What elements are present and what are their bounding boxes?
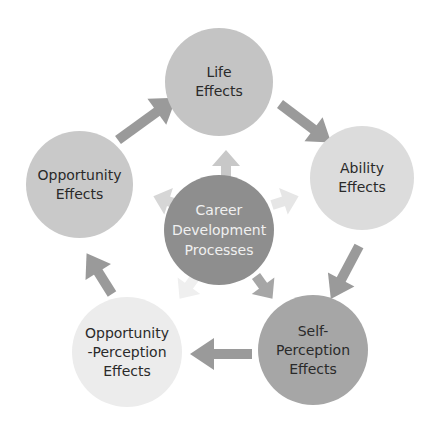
node-opportunity-perception-effects: Opportunity -Perception Effects: [72, 297, 182, 407]
node-life-effects: Life Effects: [165, 28, 273, 136]
node-label: Opportunity -Perception Effects: [85, 324, 169, 381]
radial-arrow-to-ability: [268, 183, 303, 218]
arrow-opportunity-perception-to-opportunity: [74, 245, 125, 302]
node-label: Ability Effects: [338, 159, 386, 197]
node-career-development-processes: Career Development Processes: [164, 175, 274, 285]
node-ability-effects: Ability Effects: [310, 126, 414, 230]
node-label: Life Effects: [195, 63, 243, 101]
arrow-self-perception-to-opportunity-perception: [190, 338, 252, 370]
center-label: Career Development Processes: [172, 200, 266, 260]
node-label: Opportunity Effects: [37, 166, 121, 204]
radial-arrow-to-life: [212, 150, 240, 178]
node-opportunity-effects: Opportunity Effects: [26, 131, 133, 238]
node-self-perception-effects: Self- Perception Effects: [258, 295, 368, 405]
node-label: Self- Perception Effects: [276, 322, 350, 379]
